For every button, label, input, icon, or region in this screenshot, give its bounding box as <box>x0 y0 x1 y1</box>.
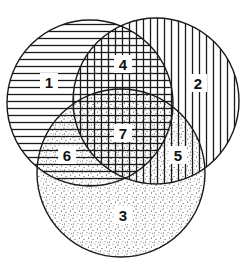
region-label-2-text: 2 <box>194 75 202 92</box>
region-label-7: 7 <box>114 124 132 142</box>
region-label-1: 1 <box>40 73 58 91</box>
region-label-5: 5 <box>169 146 187 164</box>
circle-c-fill <box>37 89 205 257</box>
region-label-1-text: 1 <box>45 74 53 91</box>
region-label-2: 2 <box>189 74 207 92</box>
region-label-3: 3 <box>114 206 132 224</box>
region-label-7-text: 7 <box>119 125 127 142</box>
region-label-6: 6 <box>58 146 76 164</box>
region-label-3-text: 3 <box>119 207 127 224</box>
venn-diagram: 1 2 3 4 5 6 7 <box>0 0 245 269</box>
region-label-4: 4 <box>114 55 132 73</box>
region-label-4-text: 4 <box>119 56 128 73</box>
region-label-6-text: 6 <box>63 147 71 164</box>
region-label-5-text: 5 <box>174 147 182 164</box>
